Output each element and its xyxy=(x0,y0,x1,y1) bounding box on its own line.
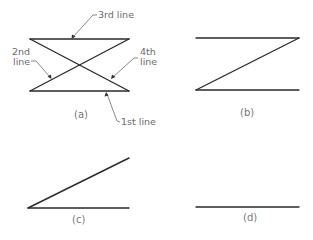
panel-a xyxy=(30,15,138,122)
caption-b: (b) xyxy=(240,108,254,118)
caption-a: (a) xyxy=(74,110,88,120)
diagram-canvas xyxy=(0,0,313,240)
label-third-line: 3rd line xyxy=(98,10,134,20)
label-second-line-2: line xyxy=(13,57,30,67)
panel-b-diagonal-line xyxy=(196,38,299,90)
label-first-line: 1st line xyxy=(121,117,156,127)
leader-first-line xyxy=(105,92,121,122)
leader-second-line xyxy=(31,61,52,79)
leader-fourth-line xyxy=(111,58,138,79)
panel-c xyxy=(28,158,129,208)
caption-d: (d) xyxy=(243,213,257,223)
panel-b xyxy=(196,38,299,90)
panel-c-diagonal-line xyxy=(28,158,129,208)
caption-c: (c) xyxy=(72,215,85,225)
label-fourth-line-2: line xyxy=(140,57,157,67)
leader-third-line xyxy=(72,15,98,39)
